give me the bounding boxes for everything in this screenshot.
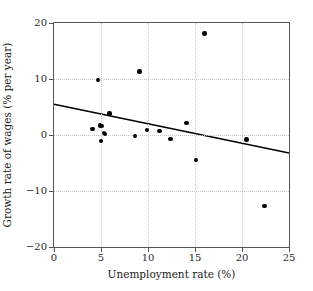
y-axis-tick: [49, 23, 54, 24]
y-axis-tick: [49, 191, 54, 192]
y-axis-tick-label: 10: [34, 74, 47, 84]
gridline-vertical: [242, 23, 243, 247]
gridline-horizontal: [54, 79, 289, 80]
y-axis-title-text: Growth rate of wages (% per year): [1, 43, 13, 228]
y-axis-tick-label: −20: [26, 242, 47, 252]
regression-trendline: [54, 104, 289, 153]
scatter-point: [103, 132, 108, 137]
x-axis-title: Unemployment rate (%): [53, 268, 290, 280]
scatter-point: [202, 31, 207, 36]
x-axis-title-text: Unemployment rate (%): [108, 268, 236, 280]
scatter-point: [157, 129, 162, 134]
scatter-chart-figure: Growth rate of wages (% per year) −20−10…: [0, 0, 313, 291]
y-axis-tick: [49, 135, 54, 136]
y-axis-tick-label: 20: [34, 18, 47, 28]
y-axis-title: Growth rate of wages (% per year): [0, 22, 14, 248]
y-axis-tick-label: 0: [41, 130, 47, 140]
gridline-vertical: [195, 23, 196, 247]
gridline-horizontal: [54, 135, 289, 136]
gridline-horizontal: [54, 191, 289, 192]
x-axis-tick-label: 25: [283, 253, 296, 263]
gridline-vertical: [148, 23, 149, 247]
scatter-point: [168, 137, 173, 142]
y-axis-tick-label: −10: [26, 186, 47, 196]
scatter-point: [90, 127, 95, 132]
scatter-point: [137, 69, 142, 74]
plot-area: −20−10010200510152025: [53, 22, 290, 248]
x-axis-tick-label: 10: [142, 253, 155, 263]
scatter-point: [244, 137, 249, 142]
x-axis-tick-label: 15: [189, 253, 202, 263]
scatter-point: [107, 111, 112, 116]
x-axis-tick-label: 20: [236, 253, 249, 263]
y-axis-tick: [49, 79, 54, 80]
x-axis-tick-label: 5: [98, 253, 104, 263]
x-axis-tick-label: 0: [51, 253, 57, 263]
gridline-vertical: [101, 23, 102, 247]
